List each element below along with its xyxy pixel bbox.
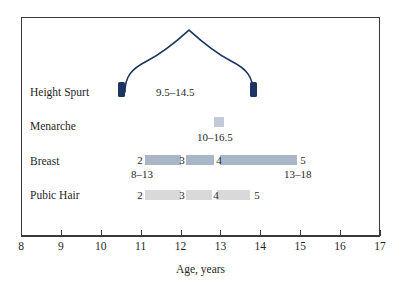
height-spurt-range-note: 9.5–14.5: [156, 86, 195, 99]
x-axis-tick-label-17: 17: [365, 239, 395, 253]
breast-stage-num-4: 4: [212, 154, 226, 166]
row-label-menarche: Menarche: [30, 119, 76, 133]
menarche-range-note: 10–16.5: [197, 131, 233, 144]
x-axis-tick-label-16: 16: [325, 239, 355, 253]
x-axis-tick-11: [141, 230, 142, 236]
breast-stage-num-3: 3: [175, 154, 189, 166]
x-axis-tick-label-15: 15: [285, 239, 315, 253]
x-axis-tick-13: [220, 230, 221, 236]
x-axis-tick-15: [300, 230, 301, 236]
row-label-pubic-hair: Pubic Hair: [30, 188, 80, 202]
x-axis-tick-12: [181, 230, 182, 236]
breast-stage-num-2: 2: [133, 154, 147, 166]
x-axis-tick-label-10: 10: [86, 239, 116, 253]
x-axis-tick-14: [260, 230, 261, 236]
breast-stage-num-5: 5: [296, 154, 310, 166]
height-spurt-end-marker: [250, 82, 257, 97]
x-axis-title: Age, years: [0, 263, 401, 275]
pubic-hair-stage-num-5: 5: [250, 189, 264, 201]
x-axis-tick-label-14: 14: [245, 239, 275, 253]
pubic-hair-stage-bar: [145, 190, 250, 200]
pubic-hair-stage-num-4: 4: [209, 189, 223, 201]
row-label-height-spurt: Height Spurt: [30, 85, 89, 99]
x-axis-tick-label-9: 9: [46, 239, 76, 253]
x-axis-tick-8: [21, 230, 22, 236]
x-axis-tick-label-13: 13: [205, 239, 235, 253]
breast-segment-3: [186, 155, 214, 165]
x-axis-tick-17: [380, 230, 381, 236]
breast-left-range-note: 8–13: [131, 168, 153, 181]
x-axis-tick-label-11: 11: [126, 239, 156, 253]
row-label-breast: Breast: [30, 154, 59, 168]
x-axis-tick-9: [61, 230, 62, 236]
x-axis-tick-label-12: 12: [166, 239, 196, 253]
menarche-marker: [214, 117, 224, 127]
pubic-hair-stage-num-3: 3: [175, 189, 189, 201]
breast-segment-4: [220, 155, 297, 165]
breast-right-range-note: 13–18: [284, 168, 312, 181]
puberty-stages-chart: Height Spurt 9.5–14.5 Menarche 10–16.5 B…: [0, 0, 401, 298]
pubic-hair-stage-num-2: 2: [133, 189, 147, 201]
x-axis-line: [21, 236, 380, 237]
x-axis-tick-10: [101, 230, 102, 236]
height-spurt-start-marker: [118, 82, 125, 97]
x-axis-tick-label-8: 8: [6, 239, 36, 253]
x-axis-tick-16: [340, 230, 341, 236]
